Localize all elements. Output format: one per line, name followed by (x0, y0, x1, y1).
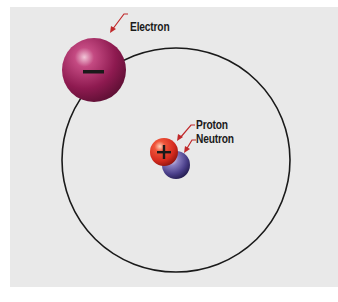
atom-diagram (0, 0, 338, 302)
electron-leader-arrow-icon (110, 26, 116, 33)
proton-leader-line (180, 125, 195, 138)
neutron-leader-arrow-icon (184, 146, 190, 153)
positive-charge-icon-vertical (163, 145, 165, 159)
proton-label: Proton (196, 118, 228, 132)
electron-label: Electron (130, 20, 169, 34)
negative-charge-icon (83, 70, 104, 74)
electron-leader-line (112, 14, 128, 30)
neutron-label: Neutron (196, 132, 234, 146)
